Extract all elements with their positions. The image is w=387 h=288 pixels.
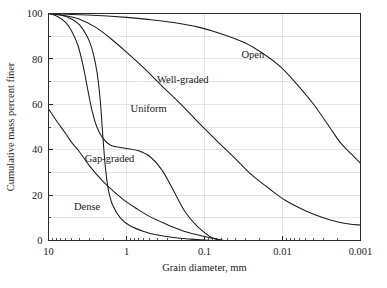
curve-label-dense: Dense (74, 201, 101, 212)
curve-label-well-graded: Well-graded (157, 74, 209, 85)
y-tick-label: 0 (37, 235, 42, 246)
x-tick-label: 0.1 (198, 246, 211, 257)
x-tick-label: 10 (43, 246, 54, 257)
x-tick-label: 0.001 (349, 246, 373, 257)
grain-size-distribution-figure: 0204060801001010.10.010.001DenseGap-grad… (0, 0, 387, 288)
x-tick-label: 0.01 (273, 246, 291, 257)
y-tick-label: 60 (32, 99, 43, 110)
curve-label-gap-graded: Gap-graded (85, 153, 135, 164)
x-tick-label: 1 (124, 246, 129, 257)
y-axis-title: Cumulative mass percent finer (5, 62, 16, 191)
curve-dense (49, 109, 225, 241)
curve-label-uniform: Uniform (131, 103, 167, 114)
y-tick-label: 100 (27, 8, 43, 19)
y-tick-label: 40 (32, 144, 43, 155)
curve-label-open: Open (241, 49, 264, 60)
y-tick-label: 80 (32, 54, 43, 65)
x-axis-title: Grain diameter, mm (162, 262, 246, 273)
chart-canvas: 0204060801001010.10.010.001DenseGap-grad… (0, 0, 387, 288)
y-tick-label: 20 (32, 190, 43, 201)
